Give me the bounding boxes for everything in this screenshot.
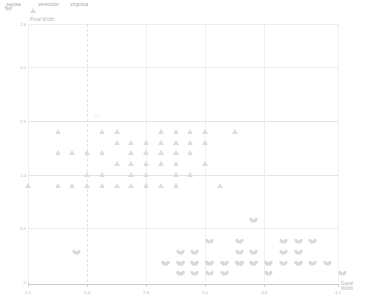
data-point-versicolor bbox=[114, 112, 120, 130]
x-axis-title: Sepal Width bbox=[341, 281, 366, 291]
triangle-marker-icon bbox=[217, 166, 223, 188]
data-point-versicolor bbox=[187, 123, 193, 141]
x-tick-mark bbox=[87, 284, 88, 287]
triangle-marker-icon bbox=[69, 133, 75, 155]
data-point-versicolor bbox=[99, 133, 105, 151]
y-tick-label: 1.0 bbox=[20, 172, 26, 177]
y-axis-ticks: 00.51.01.52.02.4 bbox=[0, 24, 26, 284]
y-tick-label: 0.5 bbox=[20, 226, 26, 231]
x-tick-label: 2.0 bbox=[25, 290, 31, 295]
data-point-versicolor bbox=[114, 144, 120, 162]
data-point-versicolor bbox=[55, 112, 61, 130]
legend-item-virginica[interactable]: virginica bbox=[68, 3, 88, 8]
x-tick-mark bbox=[205, 284, 206, 287]
triangle-marker-icon bbox=[187, 155, 193, 177]
y-tick-label: 0 bbox=[24, 280, 26, 285]
data-point-versicolor bbox=[99, 112, 105, 130]
data-point-versicolor bbox=[114, 166, 120, 184]
data-point-versicolor bbox=[187, 155, 193, 173]
triangle-marker-icon bbox=[232, 112, 238, 134]
triangle-marker-icon bbox=[99, 112, 105, 134]
x-tick-label: 2.4 bbox=[84, 290, 90, 295]
data-point-versicolor bbox=[158, 144, 164, 162]
triangle-marker-icon bbox=[55, 166, 61, 188]
y-tick-label: 2.0 bbox=[20, 65, 26, 70]
x-tick-mark bbox=[264, 284, 265, 287]
x-tick-mark bbox=[28, 284, 29, 287]
legend-item-setosa[interactable]: setosa bbox=[4, 3, 21, 8]
x-tick-mark bbox=[338, 284, 339, 287]
triangle-marker-icon bbox=[99, 133, 105, 155]
data-point-versicolor bbox=[99, 155, 105, 173]
data-point-versicolor bbox=[128, 123, 134, 141]
data-point-versicolor bbox=[84, 133, 90, 151]
triangle-marker-icon bbox=[114, 144, 120, 166]
data-point-versicolor bbox=[69, 133, 75, 151]
gridline-horizontal bbox=[28, 228, 338, 229]
data-point-versicolor bbox=[158, 112, 164, 130]
data-point-versicolor bbox=[55, 133, 61, 151]
x-tick-label: 4.1 bbox=[335, 290, 341, 295]
data-point-versicolor bbox=[69, 166, 75, 184]
triangle-marker-icon bbox=[158, 166, 164, 188]
legend-label-versicolor: versicolor bbox=[38, 3, 59, 8]
plot-area: 1.5 bbox=[28, 24, 338, 282]
gridline-vertical bbox=[264, 24, 265, 282]
data-point-versicolor bbox=[128, 155, 134, 173]
data-point-versicolor bbox=[202, 112, 208, 130]
gridline-vertical bbox=[28, 24, 29, 282]
data-point-versicolor bbox=[173, 144, 179, 162]
data-point-versicolor bbox=[84, 155, 90, 173]
scatter-chart: setosa versicolor virginica Petal Width … bbox=[0, 0, 366, 304]
triangle-marker-icon bbox=[30, 3, 36, 8]
legend-item-versicolor[interactable]: versicolor bbox=[30, 3, 59, 8]
data-point-versicolor bbox=[143, 123, 149, 141]
data-point-versicolor bbox=[55, 166, 61, 184]
gridline-vertical bbox=[338, 24, 339, 282]
triangle-marker-icon bbox=[158, 144, 164, 166]
y-tick-label: 1.5 bbox=[20, 118, 26, 123]
legend-label-virginica: virginica bbox=[70, 3, 88, 8]
x-tick-label: 3.2 bbox=[202, 290, 208, 295]
x-axis-line bbox=[28, 284, 338, 285]
x-tick-label: 3.6 bbox=[261, 290, 267, 295]
triangle-marker-icon bbox=[114, 166, 120, 188]
y-tick-label: 2.4 bbox=[20, 22, 26, 27]
x-tick-mark bbox=[146, 284, 147, 287]
gridline-horizontal bbox=[28, 24, 338, 25]
data-point-versicolor bbox=[158, 166, 164, 184]
gridline-horizontal bbox=[28, 67, 338, 68]
data-point-versicolor bbox=[202, 144, 208, 162]
data-point-versicolor bbox=[232, 112, 238, 130]
triangle-marker-icon bbox=[55, 112, 61, 134]
data-point-versicolor bbox=[217, 166, 223, 184]
data-point-versicolor bbox=[143, 155, 149, 173]
x-tick-label: 2.8 bbox=[143, 290, 149, 295]
chart-legend: setosa versicolor virginica bbox=[4, 3, 88, 8]
data-point-versicolor bbox=[173, 112, 179, 130]
gridline-vertical bbox=[87, 24, 88, 282]
triangle-marker-icon bbox=[55, 133, 61, 155]
y-axis-title: Petal Width bbox=[30, 17, 55, 22]
triangle-marker-icon bbox=[69, 166, 75, 188]
gridline-horizontal bbox=[28, 121, 338, 122]
